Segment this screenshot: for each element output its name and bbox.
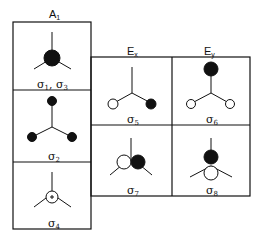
cell-label-sigma2: σ2: [48, 150, 60, 164]
cell-label-sigma4: σ4: [48, 217, 61, 231]
plus-center-orbital-icon: [34, 172, 71, 207]
cell-label-sigma7: σ7: [127, 184, 139, 198]
filled-top-open-lobes-icon: [187, 62, 235, 109]
open-filled-pair-icon: [110, 138, 152, 175]
open-filled-lobes-icon: [108, 67, 156, 109]
cell-label-sigma6: σ6: [206, 113, 219, 127]
symmetry-orbital-diagram: A1 Ex Ey σ1, σ3 σ2 σ4: [0, 0, 259, 237]
three-filled-lobes-icon: [28, 97, 77, 142]
cell-label-sigma5: σ5: [127, 113, 139, 127]
filled-over-open-pair-icon: [190, 138, 232, 180]
cell-label-sigma1-3: σ1, σ3: [37, 78, 68, 92]
header-a1: A1: [49, 8, 60, 21]
header-ex: Ex: [127, 45, 138, 58]
filled-center-orbital-icon: [34, 32, 71, 69]
cell-label-sigma8: σ8: [206, 184, 218, 198]
